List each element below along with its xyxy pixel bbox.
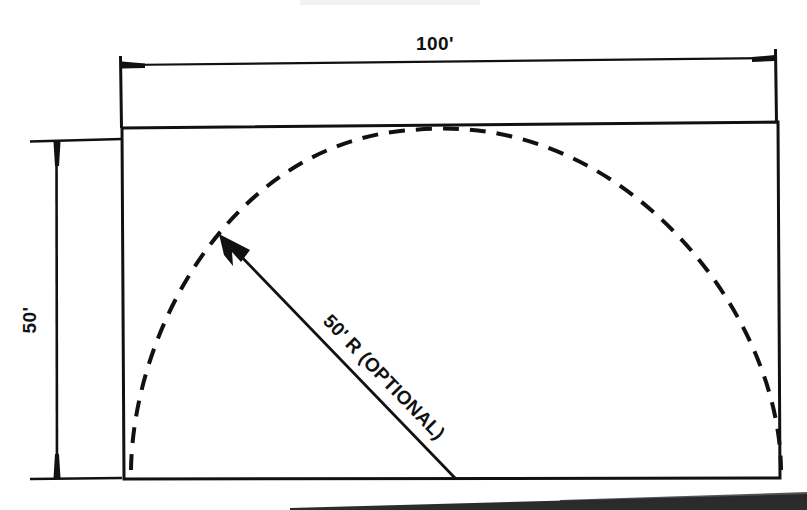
width-arrow-right-icon (752, 55, 775, 62)
width-dimension-line (122, 58, 775, 65)
height-arrow-top-icon (54, 142, 61, 166)
width-dimension-group (121, 49, 777, 128)
rectangle-outline (122, 122, 780, 479)
width-arrow-left-icon (122, 62, 145, 69)
drawing-svg: 100' 50' 50' R (OPTIONAL) (0, 0, 807, 510)
height-dimension-group (30, 139, 122, 479)
height-dimension-line (57, 142, 58, 478)
radius-leader-shaft (233, 248, 455, 478)
radius-callout-label: 50' R (OPTIONAL) (319, 310, 449, 444)
scan-artifact-bottom (290, 492, 807, 510)
optional-radius-arc (131, 129, 781, 470)
technical-drawing-canvas: 100' 50' 50' R (OPTIONAL) (0, 0, 807, 510)
radius-arc-dashed-path (131, 129, 781, 470)
site-boundary-rectangle (122, 122, 780, 479)
height-extension-line-bottom (30, 478, 122, 479)
width-extension-line-right (776, 49, 777, 122)
width-extension-line-left (121, 56, 122, 128)
scan-artifact-top (300, 0, 480, 5)
radius-leader-line (219, 234, 455, 478)
height-extension-line-top (30, 139, 122, 142)
width-dimension-label: 100' (416, 33, 454, 54)
height-dimension-label: 50' (19, 306, 40, 333)
height-arrow-bottom-icon (54, 454, 61, 478)
